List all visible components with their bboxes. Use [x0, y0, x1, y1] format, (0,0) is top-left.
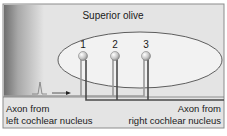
neuron-soma-icon — [142, 52, 151, 61]
left-axon-label-line2: left cochlear nucleus — [6, 115, 93, 126]
neuron-label: 3 — [143, 39, 149, 50]
right-axon-label-line2: right cochlear nucleus — [129, 115, 222, 126]
left-axon-label-line1: Axon from — [6, 103, 49, 114]
right-axon-label-line1: Axon from — [178, 103, 221, 114]
left-shading — [4, 5, 44, 97]
superior-olive-diagram: Superior olive 1 2 3 Axon from left coch… — [0, 0, 227, 136]
neuron-soma-icon — [111, 52, 120, 61]
title-label: Superior olive — [82, 10, 144, 21]
neuron-label: 2 — [112, 39, 118, 50]
neuron-soma-icon — [79, 52, 88, 61]
neuron-label: 1 — [80, 39, 86, 50]
